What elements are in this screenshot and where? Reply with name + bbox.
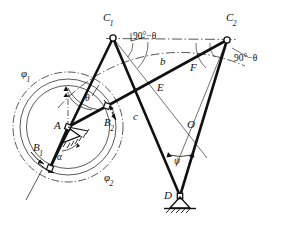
- joint-b2: [103, 102, 110, 109]
- label-phi1: φ1: [21, 68, 31, 82]
- bar-C1-D: [113, 38, 180, 196]
- theta-arc: [64, 86, 101, 110]
- label-angle-right: 90°−θ: [234, 54, 257, 64]
- label-b1: B1: [33, 142, 43, 156]
- label-angle-left: 90°−θ: [133, 32, 156, 42]
- label-a: A: [54, 120, 61, 131]
- label-o: O: [187, 119, 195, 130]
- bisector-construction-lines: [113, 38, 227, 166]
- label-f: F: [190, 62, 197, 73]
- joint-c1: [110, 35, 116, 41]
- label-d: D: [164, 190, 172, 201]
- label-psi: ψ: [174, 157, 180, 167]
- label-e: E: [157, 82, 164, 93]
- linkage-figure: C1 C2 B1 B2 A D O E F b c θ α ψ φ1 φ2 90…: [0, 0, 286, 228]
- joint-c2: [224, 37, 230, 43]
- label-alpha: α: [57, 153, 62, 163]
- label-link-c: c: [133, 111, 138, 122]
- chord-c1-c2: [106, 39, 236, 40]
- label-link-b: b: [160, 56, 166, 67]
- label-phi2: φ2: [104, 172, 114, 186]
- label-c1: C1: [103, 12, 114, 26]
- joint-b1: [46, 164, 53, 171]
- label-b2: B2: [104, 117, 114, 131]
- label-c2: C2: [226, 12, 237, 26]
- label-theta: θ: [85, 94, 90, 104]
